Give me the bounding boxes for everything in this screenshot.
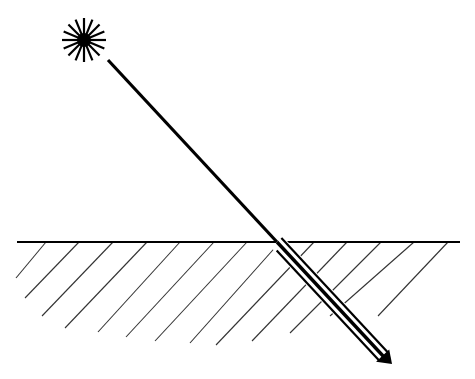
hatch-line: [126, 242, 214, 337]
diagram-canvas: [0, 0, 475, 379]
hatch-line: [65, 242, 147, 328]
refraction-diagram: [0, 0, 475, 379]
refracted-beam-arrow: [277, 238, 392, 364]
hatch-line: [16, 242, 46, 278]
ground-hatching: [16, 242, 448, 345]
hatch-line: [98, 242, 180, 332]
hatch-line: [42, 242, 113, 316]
hatch-line: [25, 242, 79, 298]
incident-ray: [108, 60, 277, 242]
sun-icon: [62, 18, 106, 62]
hatch-line: [378, 242, 448, 316]
